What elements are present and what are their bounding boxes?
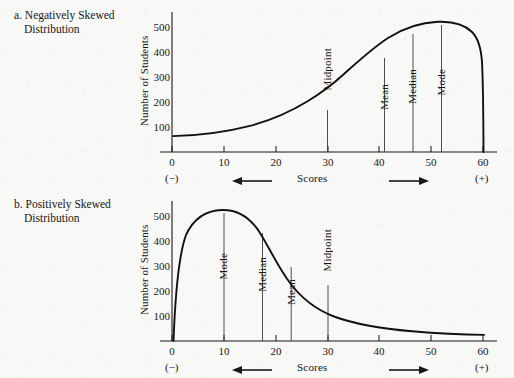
panel-b-x-axis-label: Scores bbox=[297, 361, 328, 374]
panel-b-negative-sign: (−) bbox=[165, 361, 179, 374]
panel-a-positive-sign: (+) bbox=[475, 172, 489, 185]
left-arrow-icon bbox=[232, 365, 276, 375]
right-arrow-icon bbox=[385, 176, 429, 186]
panel-a-x-ticks: 0 10 20 30 40 50 60 bbox=[0, 0, 514, 189]
x-tick-30: 30 bbox=[315, 346, 341, 357]
panel-a-negative-sign: (−) bbox=[165, 172, 179, 185]
x-tick-20: 20 bbox=[263, 157, 289, 168]
x-tick-10: 10 bbox=[211, 346, 237, 357]
x-tick-50: 50 bbox=[418, 346, 444, 357]
x-tick-60: 60 bbox=[470, 346, 496, 357]
panel-a-x-axis-label: Scores bbox=[297, 172, 328, 185]
figure-page: a. Negatively Skewed Distribution Number… bbox=[0, 0, 514, 378]
x-tick-40: 40 bbox=[366, 346, 392, 357]
right-arrow-icon bbox=[385, 365, 429, 375]
panel-b-positive-sign: (+) bbox=[475, 361, 489, 374]
x-tick-20: 20 bbox=[263, 346, 289, 357]
x-tick-40: 40 bbox=[366, 157, 392, 168]
x-tick-10: 10 bbox=[211, 157, 237, 168]
x-tick-0: 0 bbox=[159, 346, 185, 357]
panel-b-x-ticks: 0 10 20 30 40 50 60 bbox=[0, 189, 514, 378]
x-tick-50: 50 bbox=[418, 157, 444, 168]
x-tick-60: 60 bbox=[470, 157, 496, 168]
x-tick-30: 30 bbox=[315, 157, 341, 168]
left-arrow-icon bbox=[232, 176, 276, 186]
panel-a-axis-footer: (−) Scores (+) bbox=[0, 172, 514, 190]
panel-b-axis-footer: (−) Scores (+) bbox=[0, 361, 514, 378]
panel-negatively-skewed: a. Negatively Skewed Distribution Number… bbox=[0, 0, 514, 189]
panel-positively-skewed: b. Positively Skewed Distribution Number… bbox=[0, 189, 514, 378]
x-tick-0: 0 bbox=[159, 157, 185, 168]
